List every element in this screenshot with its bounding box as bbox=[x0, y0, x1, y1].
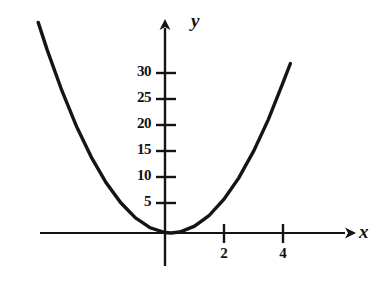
x-axis-label: x bbox=[359, 221, 369, 243]
x-tick-label-2: 2 bbox=[210, 245, 238, 262]
y-tick-label-25: 25 bbox=[113, 89, 151, 106]
y-tick-label-30: 30 bbox=[113, 63, 151, 80]
x-tick-label-4: 4 bbox=[269, 245, 297, 262]
x-axis-arrow-icon bbox=[345, 228, 356, 239]
y-tick-label-15: 15 bbox=[113, 141, 151, 158]
y-axis-label: y bbox=[191, 10, 199, 32]
plot-canvas bbox=[0, 0, 380, 283]
y-tick-label-20: 20 bbox=[113, 115, 151, 132]
parabola-figure: y x 30 25 20 15 10 5 2 4 bbox=[0, 0, 380, 283]
y-tick-label-10: 10 bbox=[113, 167, 151, 184]
y-tick-label-5: 5 bbox=[113, 193, 151, 210]
